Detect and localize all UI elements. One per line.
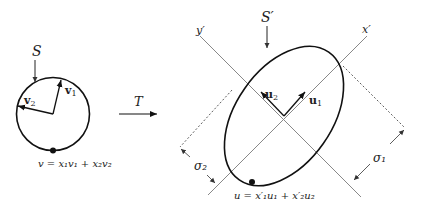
v2-label: v2 bbox=[23, 94, 36, 108]
left-equation: v = x₁v₁ + x₂v₂ bbox=[38, 158, 112, 169]
set-s-label: S bbox=[32, 43, 42, 59]
sigma1-label: σ₁ bbox=[373, 151, 386, 165]
x-prime-axis bbox=[208, 36, 367, 195]
x-prime-label: x′ bbox=[362, 23, 371, 36]
point-v bbox=[50, 148, 56, 154]
sigma2-dim-upper bbox=[181, 149, 190, 157]
v2-vector bbox=[18, 106, 53, 114]
sigma1-extension-line bbox=[343, 66, 405, 128]
point-u bbox=[249, 179, 255, 185]
svd-diagram: S v1 v2 v = x₁v₁ + x₂v₂ T S′ y′ x′ u1 u2… bbox=[0, 0, 422, 211]
ellipse-group bbox=[180, 25, 405, 208]
sigma2-label: σ₂ bbox=[194, 159, 207, 173]
sigma1-dim-lower bbox=[354, 164, 370, 180]
v1-vector bbox=[53, 80, 61, 114]
sigma2-dim-lower bbox=[207, 175, 215, 183]
right-equation: u = x′₁u₁ + x′₂u₂ bbox=[234, 190, 315, 201]
sigma1-dim-upper bbox=[390, 130, 404, 144]
y-prime-label: y′ bbox=[195, 24, 205, 37]
u2-label: u2 bbox=[265, 88, 278, 102]
u1-vector bbox=[284, 92, 305, 116]
transform-label: T bbox=[134, 94, 144, 109]
set-s-prime-label: S′ bbox=[261, 9, 275, 25]
v1-label: v1 bbox=[64, 84, 77, 98]
u1-label: u1 bbox=[309, 94, 322, 108]
